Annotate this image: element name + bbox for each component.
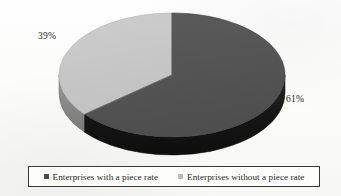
legend-item-without-piece-rate[interactable]: Enterprises without a piece rate	[178, 172, 304, 182]
data-label-light-slice: 39%	[38, 31, 56, 41]
legend-label-without-piece-rate: Enterprises without a piece rate	[187, 172, 304, 182]
legend-swatch-icon-light	[178, 174, 183, 179]
legend-swatch-icon-dark	[44, 174, 49, 179]
legend-item-with-piece-rate[interactable]: Enterprises with a piece rate	[44, 172, 159, 182]
legend-label-with-piece-rate: Enterprises with a piece rate	[53, 172, 159, 182]
pie-chart-figure: 39% 61% Enterprises with a piece rate En…	[0, 0, 341, 196]
pie-chart-svg	[0, 0, 341, 160]
data-label-dark-slice: 61%	[286, 94, 304, 104]
chart-legend: Enterprises with a piece rate Enterprise…	[28, 166, 320, 187]
chart-plot-area: 39% 61%	[0, 0, 341, 160]
